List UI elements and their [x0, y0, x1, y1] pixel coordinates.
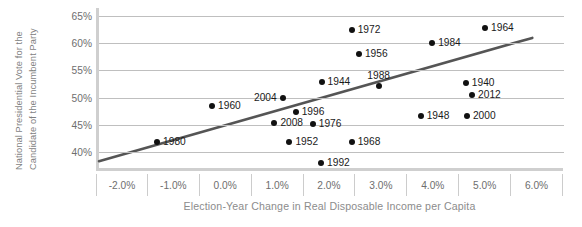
- data-point-1980[interactable]: [154, 139, 160, 145]
- data-point-label-2012: 2012: [478, 90, 501, 100]
- data-point-1988[interactable]: [376, 83, 382, 89]
- y-tick-label: 40%: [46, 146, 92, 157]
- data-point-label-1948: 1948: [427, 111, 450, 121]
- x-tick-label: -1.0%: [148, 174, 200, 196]
- data-point-label-1976: 1976: [319, 119, 342, 129]
- plot-inner: 1980196020042008195219961976194419921972…: [99, 8, 563, 168]
- y-tick-label: 50%: [46, 92, 92, 103]
- data-point-label-1952: 1952: [295, 137, 318, 147]
- data-point-label-1984: 1984: [438, 38, 461, 48]
- data-point-label-1964: 1964: [491, 23, 514, 33]
- y-tick-label: 55%: [46, 65, 92, 76]
- x-tick-label: -2.0%: [96, 174, 148, 196]
- y-tick-label: 65%: [46, 11, 92, 22]
- y-axis-title-line-2: Candidate of the Incumbent Party: [28, 28, 38, 170]
- x-tick-label: 2.0%: [304, 174, 356, 196]
- data-point-1984[interactable]: [429, 40, 435, 46]
- data-point-label-1944: 1944: [328, 77, 351, 87]
- data-point-1996[interactable]: [293, 109, 299, 115]
- plot-area: 1980196020042008195219961976194419921972…: [96, 8, 563, 171]
- data-point-label-1956: 1956: [365, 49, 388, 59]
- data-point-1948[interactable]: [418, 113, 424, 119]
- y-tick-label: 60%: [46, 38, 92, 49]
- x-axis-tick-labels: -2.0%-1.0%0.0%1.0%2.0%3.0%4.0%5.0%6.0%: [96, 174, 563, 196]
- x-tick-label: 1.0%: [252, 174, 304, 196]
- data-point-label-1960: 1960: [218, 101, 241, 111]
- gridline-55: [99, 70, 564, 71]
- y-tick-label: 45%: [46, 119, 92, 130]
- x-tick-label: 6.0%: [511, 174, 563, 196]
- data-point-label-2004: 2004: [254, 93, 277, 103]
- data-point-label-1980: 1980: [163, 137, 186, 147]
- x-tick-label: 3.0%: [355, 174, 407, 196]
- data-point-2004[interactable]: [280, 95, 286, 101]
- x-tick-label: 0.0%: [200, 174, 252, 196]
- data-point-label-1940: 1940: [472, 78, 495, 88]
- data-point-1960[interactable]: [209, 103, 215, 109]
- data-point-1940[interactable]: [463, 80, 469, 86]
- y-axis-title: National Presidential Vote for the Candi…: [0, 0, 36, 175]
- data-point-1992[interactable]: [318, 160, 324, 166]
- x-tick-label: 4.0%: [407, 174, 459, 196]
- gridline-65: [99, 16, 564, 17]
- data-point-label-2008: 2008: [280, 118, 303, 128]
- gridline-60: [99, 43, 564, 44]
- data-point-label-1972: 1972: [358, 25, 381, 35]
- y-axis-title-line-1: National Presidential Vote for the: [14, 31, 24, 170]
- data-point-label-1968: 1968: [358, 137, 381, 147]
- x-tick-label: 5.0%: [459, 174, 511, 196]
- data-point-1968[interactable]: [349, 139, 355, 145]
- x-axis-title: Election-Year Change in Real Disposable …: [96, 200, 563, 212]
- data-point-label-1996: 1996: [302, 107, 325, 117]
- data-point-label-1988: 1988: [367, 71, 390, 81]
- scatter-chart: National Presidential Vote for the Candi…: [0, 0, 582, 227]
- gridline-40: [99, 152, 564, 153]
- y-axis-tick-labels: 40%45%50%55%60%65%: [42, 0, 92, 175]
- data-point-label-1992: 1992: [327, 158, 350, 168]
- data-point-1972[interactable]: [349, 27, 355, 33]
- data-point-2000[interactable]: [464, 113, 470, 119]
- data-point-label-2000: 2000: [473, 111, 496, 121]
- data-point-1944[interactable]: [319, 79, 325, 85]
